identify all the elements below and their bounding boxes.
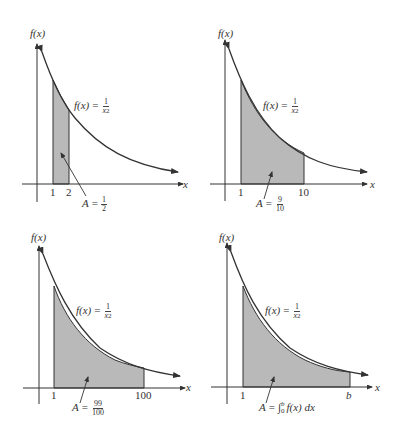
y-axis-label: f(x): [218, 27, 233, 39]
area-label: A=12: [82, 196, 107, 213]
x-tick: 1: [240, 389, 246, 401]
function-label: f(x)=1x2: [74, 98, 111, 115]
x-tick: 2: [66, 186, 72, 198]
shaded-area: [241, 80, 304, 184]
x-axis-label: x: [183, 178, 188, 190]
panel-3: [23, 246, 185, 404]
y-axis-label: f(x): [31, 231, 46, 243]
area-label: A=99100: [72, 400, 105, 417]
shaded-area: [54, 286, 144, 388]
x-tick: 1: [238, 186, 244, 198]
x-axis-label: x: [186, 381, 191, 393]
function-label: f(x)=1x2: [76, 303, 113, 320]
x-tick: 100: [135, 389, 152, 401]
y-axis-label: f(x): [30, 27, 45, 39]
x-axis-label: x: [370, 178, 375, 190]
x-tick: b: [346, 389, 352, 401]
function-label: f(x)=1x2: [265, 303, 302, 320]
x-tick: 1: [51, 389, 57, 401]
area-label: A=∫b0f(x) dx: [259, 401, 315, 415]
diagram-canvas: [0, 0, 403, 440]
panel-2: [210, 40, 367, 201]
area-label: A=910: [256, 196, 285, 213]
function-label: f(x)=1x2: [263, 98, 300, 115]
y-axis-label: f(x): [219, 231, 234, 243]
x-axis-label: x: [375, 381, 380, 393]
panel-1: [22, 44, 183, 202]
x-tick: 10: [298, 186, 309, 198]
x-tick: 1: [50, 186, 56, 198]
panel-4: [211, 243, 372, 404]
